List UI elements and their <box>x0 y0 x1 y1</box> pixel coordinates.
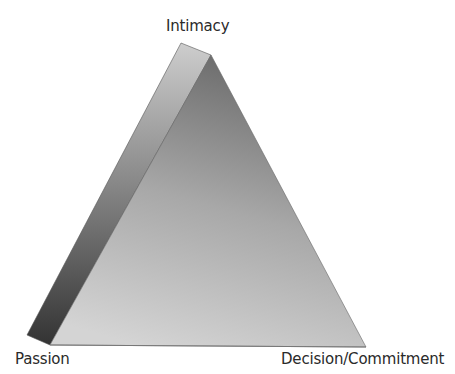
vertex-label-passion: Passion <box>15 350 70 368</box>
vertex-label-decision-commitment: Decision/Commitment <box>281 350 444 368</box>
triangle-shape <box>0 0 455 374</box>
triangle-diagram: Intimacy Passion Decision/Commitment <box>0 0 455 374</box>
vertex-label-intimacy: Intimacy <box>166 17 229 35</box>
